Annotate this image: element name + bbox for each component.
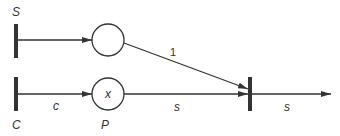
arc-c-label: c [53,99,59,113]
transition-s-label: S [12,5,20,19]
arc-1-label: 1 [170,46,176,58]
petri-net-diagram: S C c x P 1 s s [0,0,340,136]
transition-s [14,24,18,58]
place-p-token: x [104,87,112,101]
arc-top-to-transition [124,43,248,89]
transition-c-label: C [12,118,21,132]
place-top [92,24,124,56]
transition-t [248,77,252,111]
transition-c [14,77,18,111]
arc-s-label-1: s [174,100,180,114]
place-p-label: P [101,118,109,132]
arc-s-label-2: s [284,100,290,114]
